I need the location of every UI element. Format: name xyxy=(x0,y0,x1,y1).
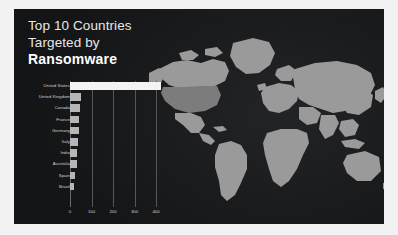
bar-track xyxy=(70,92,170,102)
bar-united-kingdom xyxy=(70,93,81,101)
landmass-arctic-island-2 xyxy=(205,47,223,57)
chart-x-axis: 0 100 200 300 400 xyxy=(70,208,180,218)
x-tick-400: 400 xyxy=(152,208,159,215)
chart-row: Spain xyxy=(20,171,170,181)
landmass-southeast-asia xyxy=(339,119,359,137)
chart-row: Australia xyxy=(20,159,170,169)
bar-track xyxy=(70,81,170,91)
landmass-japan xyxy=(375,87,384,103)
outer-frame: Top 10 Countries Targeted by Ransomware xyxy=(0,0,398,235)
bar-label-india: India xyxy=(14,148,70,158)
landmass-south-america xyxy=(215,141,247,201)
landmass-new-zealand xyxy=(383,181,384,191)
landmass-australia xyxy=(343,151,381,181)
landmass-africa xyxy=(263,129,309,187)
bar-track xyxy=(70,159,170,169)
landmass-greenland xyxy=(230,38,275,74)
bar-united-states xyxy=(70,82,161,91)
bar-label-germany: Germany xyxy=(14,126,70,136)
x-tick-0: 0 xyxy=(69,208,71,215)
chart-row: United Kingdom xyxy=(20,92,170,102)
landmass-united-states xyxy=(161,86,221,113)
title-line-1: Top 10 Countries xyxy=(28,18,198,35)
bar-track xyxy=(70,137,170,147)
landmass-caribbean xyxy=(213,126,227,132)
bar-india xyxy=(70,149,77,157)
bar-track xyxy=(70,182,170,192)
bar-label-canada: Canada xyxy=(14,103,70,113)
bar-track xyxy=(70,115,170,125)
chart-row: United States xyxy=(20,81,170,91)
landmass-central-america xyxy=(199,133,215,145)
bar-track xyxy=(70,103,170,113)
bar-track xyxy=(70,126,170,136)
bar-france xyxy=(70,116,79,124)
bar-brazil xyxy=(70,183,74,191)
chart-row: Germany xyxy=(20,126,170,136)
x-tick-300: 300 xyxy=(131,208,138,215)
bar-label-united-kingdom: United Kingdom xyxy=(14,92,70,102)
landmass-mexico xyxy=(175,113,205,133)
x-tick-200: 200 xyxy=(109,208,116,215)
bar-track xyxy=(70,148,170,158)
landmass-europe xyxy=(261,83,299,113)
ransomware-bar-chart: United States United Kingdom Canada Fran… xyxy=(20,81,170,216)
bar-australia xyxy=(70,160,77,168)
chart-row: France xyxy=(20,115,170,125)
page-title: Top 10 Countries Targeted by Ransomware xyxy=(28,18,198,68)
bar-label-italy: Italy xyxy=(14,137,70,147)
bar-label-spain: Spain xyxy=(14,171,70,181)
bar-italy xyxy=(70,138,78,146)
title-line-3-ransomware: Ransomware xyxy=(28,51,198,68)
bar-label-brazil: Brazil xyxy=(14,182,70,192)
bar-germany xyxy=(70,127,79,135)
bar-label-australia: Australia xyxy=(14,159,70,169)
bar-canada xyxy=(70,104,80,112)
chart-row: Italy xyxy=(20,137,170,147)
bar-label-france: France xyxy=(14,115,70,125)
chart-row: Brazil xyxy=(20,182,170,192)
infographic-panel: Top 10 Countries Targeted by Ransomware xyxy=(14,9,384,224)
landmass-china-east xyxy=(341,89,373,115)
chart-row: India xyxy=(20,148,170,158)
x-tick-100: 100 xyxy=(88,208,95,215)
landmass-indonesia xyxy=(341,139,365,149)
bar-track xyxy=(70,171,170,181)
chart-row: Canada xyxy=(20,103,170,113)
title-line-2: Targeted by xyxy=(28,35,198,52)
bar-label-united-states: United States xyxy=(14,81,70,91)
bar-spain xyxy=(70,172,75,180)
landmass-india xyxy=(319,115,339,139)
landmass-middle-east xyxy=(299,107,321,125)
